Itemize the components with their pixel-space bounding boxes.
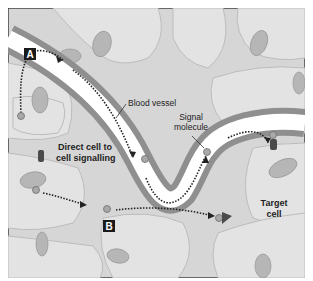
svg-text:A: A: [26, 49, 33, 60]
label-target-2: cell: [266, 209, 281, 219]
marker-b: B: [103, 220, 115, 232]
receptor-icon: [270, 139, 277, 150]
svg-text:B: B: [105, 221, 112, 232]
diagram-frame: A B Blood vessel Signal molecule Direct …: [8, 8, 305, 278]
label-signal-molecule-2: molecule: [174, 122, 208, 132]
receptor-icon: [38, 150, 44, 162]
label-target-1: Target: [261, 198, 288, 208]
label-signal-molecule-1: Signal: [179, 112, 203, 122]
cell-signalling-diagram: A B Blood vessel Signal molecule Direct …: [8, 8, 305, 278]
label-direct-1: Direct cell to: [58, 142, 113, 152]
label-blood-vessel: Blood vessel: [128, 98, 176, 108]
label-direct-2: cell signalling: [56, 153, 116, 163]
marker-a: A: [24, 48, 36, 60]
